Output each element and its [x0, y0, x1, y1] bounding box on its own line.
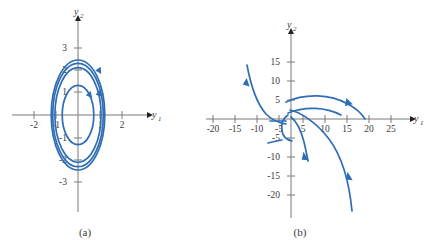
panel-b-trajectory-upper-left	[247, 65, 286, 124]
caption-a: (a)	[55, 226, 115, 238]
panel-b-ytick--15: -15	[267, 171, 280, 181]
panel-a-axes	[12, 20, 148, 212]
panel-b-x-axis-label-sub: 1	[420, 119, 424, 127]
figure-container: -2 -1 1 2 3 2 1 -1 -2 -3 y 1 y 2	[0, 0, 425, 251]
panel-a-x-axis-label: y 1	[151, 109, 162, 123]
panel-b-ytick-5: 5	[275, 95, 280, 105]
panel-b-xtick-10: 10	[320, 124, 330, 134]
panel-b-xtick-15: 15	[342, 124, 352, 134]
panel-a-x-axis-label-text: y	[151, 109, 157, 120]
panel-a-y-axis-label-text: y	[73, 6, 79, 17]
panel-a-y-axis-label-sub: 2	[80, 12, 84, 20]
phase-portrait-figure: -2 -1 1 2 3 2 1 -1 -2 -3 y 1 y 2	[0, 0, 425, 251]
panel-b-x-axis-label-text: y	[413, 113, 419, 124]
panel-a-xtick-2: 2	[120, 120, 125, 130]
panel-b-xtick--20: -20	[207, 124, 220, 134]
panel-b-ytick--20: -20	[267, 190, 280, 200]
panel-a-xtick--2: -2	[30, 120, 38, 130]
panel-b: -20 -15 -10 -5 5 10 15 20 25 15 10 5 -5 …	[206, 19, 424, 218]
panel-b-y-axis-label-text: y	[286, 19, 292, 30]
panel-b-arrow-descending	[346, 172, 354, 181]
panel-b-ytick-10: 10	[271, 76, 281, 86]
panel-b-x-axis-label: y 1	[413, 113, 424, 127]
panel-a-arrow-outer	[95, 66, 104, 75]
panel-b-y-axis-label: y 2	[286, 19, 297, 33]
panel-b-xtick--10: -10	[251, 124, 264, 134]
panel-b-xtick-25: 25	[386, 124, 396, 134]
panel-a-ytick-3: 3	[62, 43, 67, 53]
panel-a-y-axis-label: y 2	[73, 6, 84, 20]
panel-b-y-axis-label-sub: 2	[293, 25, 297, 33]
panel-a-x-axis-label-sub: 1	[158, 115, 162, 123]
panel-b-trajectories	[243, 65, 365, 211]
panel-b-xtick-20: 20	[364, 124, 374, 134]
panel-a-ytick--3: -3	[59, 177, 67, 187]
panel-b-trajectory-lower-short	[291, 117, 308, 161]
panel-b-ytick--10: -10	[267, 152, 280, 162]
panel-b-ytick-15: 15	[271, 57, 281, 67]
panel-a: -2 -1 1 2 3 2 1 -1 -2 -3 y 1 y 2	[12, 6, 162, 212]
caption-b: (b)	[270, 226, 330, 238]
panel-b-xtick--15: -15	[229, 124, 242, 134]
